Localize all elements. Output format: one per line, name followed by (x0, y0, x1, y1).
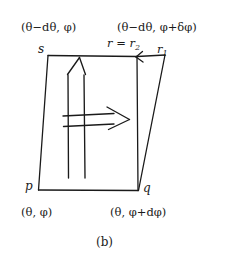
right-arrow-shaft-lower (64, 124, 115, 127)
up-arrow-head-right (80, 58, 86, 75)
figure-caption: (b) (96, 236, 113, 248)
right-arrow-shaft-upper (63, 114, 114, 117)
edge-s-to-p (39, 56, 49, 191)
velocity-arrow-up (68, 58, 86, 179)
vertex-label-p: p (25, 180, 33, 192)
coordinate-label-bottom-left: (θ, φ) (21, 207, 52, 219)
up-arrow-head-left (68, 58, 80, 75)
edge-topright-to-q (137, 57, 138, 191)
radius-label-r1-subscript: 1 (163, 49, 168, 58)
vertex-label-s: s (38, 43, 44, 55)
radius-label-r1: r1 (157, 44, 168, 56)
vertex-label-q: q (143, 182, 151, 194)
figure-panel-b: top-right corner --> p --> q --> q (r = … (0, 0, 226, 262)
radius-label-r2-subscript: 2 (135, 43, 140, 52)
edge-r1-to-q (139, 55, 166, 191)
radius-label-r2-text: r = r (107, 36, 135, 50)
up-arrow-shaft-right (84, 75, 85, 178)
radius-label-r1-text: r (157, 42, 163, 56)
coordinate-label-bottom-right: (θ, φ+dφ) (110, 207, 166, 219)
coordinate-label-top-right: (θ−dθ, φ+δφ) (117, 22, 197, 34)
radius-label-r2: r = r2 (107, 38, 140, 50)
velocity-arrow-right (63, 107, 130, 130)
surface-element-outline: top-right corner --> p --> q --> q (r = … (39, 55, 166, 191)
coordinate-label-top-left: (θ−dθ, φ) (21, 22, 76, 34)
edge-p-to-q (39, 190, 139, 191)
edge-s-to-topright (48, 56, 137, 57)
